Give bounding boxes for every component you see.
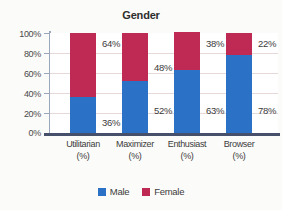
gender-stacked-bar-chart: Gender 100% 80% 60% 40% 20% 0% bbox=[0, 0, 282, 210]
data-label-female-utilitarian: 64% bbox=[102, 38, 120, 49]
bar-segment-female-utilitarian[interactable] bbox=[70, 33, 96, 97]
legend-label-female: Female bbox=[154, 186, 184, 197]
chart-title: Gender bbox=[0, 9, 282, 21]
x-axis-line bbox=[44, 133, 280, 136]
legend-swatch-female-icon bbox=[142, 188, 150, 196]
category-name-utilitarian: Utilitarian bbox=[66, 139, 100, 149]
data-label-female-enthusiast: 38% bbox=[206, 38, 224, 49]
bar-segment-male-enthusiast[interactable] bbox=[174, 70, 200, 133]
legend-item-female[interactable]: Female bbox=[142, 186, 184, 197]
y-tick-label-20: 20% bbox=[1, 109, 41, 119]
legend-swatch-male-icon bbox=[98, 188, 106, 196]
y-tick-label-100: 100% bbox=[1, 29, 41, 39]
y-tick-label-80: 80% bbox=[1, 49, 41, 59]
bar-group-enthusiast[interactable] bbox=[174, 33, 200, 133]
y-tick-label-0: 0% bbox=[1, 128, 41, 138]
bar-segment-female-browser[interactable] bbox=[226, 33, 252, 55]
legend-item-male[interactable]: Male bbox=[98, 186, 129, 197]
data-label-male-maximizer: 52% bbox=[154, 105, 172, 116]
category-label-browser: Browser (%) bbox=[206, 139, 272, 162]
bar-group-utilitarian[interactable] bbox=[70, 33, 96, 133]
data-label-male-utilitarian: 36% bbox=[102, 117, 120, 128]
bar-segment-female-enthusiast[interactable] bbox=[174, 32, 200, 70]
plot-area: 64% 48% 38% 22% 36% 52% 63% 78% bbox=[50, 33, 278, 133]
chart-legend: Male Female bbox=[0, 186, 282, 197]
bar-group-browser[interactable] bbox=[226, 33, 252, 133]
y-tick-label-40: 40% bbox=[1, 89, 41, 99]
bar-group-maximizer[interactable] bbox=[122, 33, 148, 133]
data-label-female-maximizer: 48% bbox=[154, 62, 172, 73]
data-label-male-enthusiast: 63% bbox=[206, 105, 224, 116]
category-name-enthusiast: Enthusiast bbox=[168, 139, 207, 149]
y-tick-label-60: 60% bbox=[1, 69, 41, 79]
category-name-maximizer: Maximizer bbox=[116, 139, 154, 149]
category-unit-browser: (%) bbox=[206, 151, 272, 163]
bar-segment-male-maximizer[interactable] bbox=[122, 81, 148, 133]
category-name-browser: Browser bbox=[224, 139, 255, 149]
bar-segment-male-utilitarian[interactable] bbox=[70, 97, 96, 133]
bar-segment-female-maximizer[interactable] bbox=[122, 33, 148, 81]
legend-label-male: Male bbox=[110, 186, 129, 197]
data-label-male-browser: 78% bbox=[258, 105, 276, 116]
bar-segment-male-browser[interactable] bbox=[226, 55, 252, 133]
data-label-female-browser: 22% bbox=[258, 38, 276, 49]
